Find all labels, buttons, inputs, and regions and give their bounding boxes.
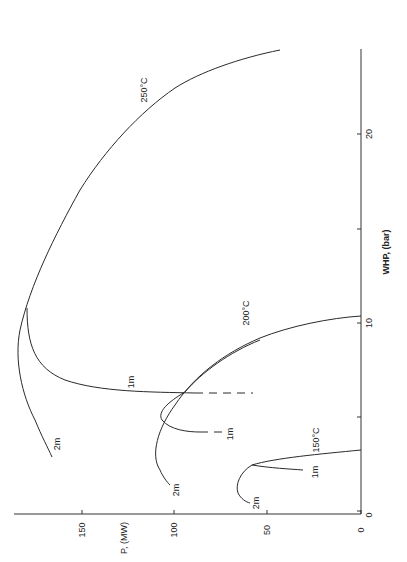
whp-tick-20: 20 bbox=[364, 129, 374, 139]
curve-200c-2m-parallel bbox=[185, 340, 260, 392]
label-200c-2m: 2m bbox=[171, 484, 181, 497]
label-250c-1m: 1m bbox=[126, 376, 136, 389]
label-150c-2m: 2m bbox=[251, 497, 261, 510]
power-ticks bbox=[82, 510, 361, 514]
curve-250c-2m bbox=[18, 50, 280, 457]
label-150c: 150°C bbox=[311, 427, 321, 453]
label-250c-2m: 2m bbox=[52, 438, 62, 451]
label-150c-1m: 1m bbox=[310, 466, 320, 479]
power-axis-title: P, (MW) bbox=[119, 522, 129, 554]
curve-250c-1m bbox=[27, 308, 195, 393]
whp-tick-0: 0 bbox=[364, 512, 374, 517]
label-250c: 250°C bbox=[139, 77, 149, 103]
label-200c-1m: 1m bbox=[225, 428, 235, 441]
label-200c: 200°C bbox=[241, 300, 251, 326]
power-tick-50: 50 bbox=[262, 525, 272, 535]
curve-150c-2m bbox=[237, 450, 361, 503]
whp-axis-title: WHP, (bar) bbox=[381, 230, 391, 275]
power-vs-whp-chart: 0 10 20 WHP, (bar) 0 50 100 150 P, (MW) … bbox=[0, 0, 407, 562]
whp-tick-10: 10 bbox=[364, 318, 374, 328]
power-tick-150: 150 bbox=[77, 522, 87, 537]
curve-150c-1m bbox=[252, 465, 303, 470]
curve-200c-2m bbox=[156, 316, 361, 485]
power-tick-0: 0 bbox=[356, 527, 366, 532]
power-tick-100: 100 bbox=[169, 522, 179, 537]
whp-ticks bbox=[357, 134, 361, 511]
